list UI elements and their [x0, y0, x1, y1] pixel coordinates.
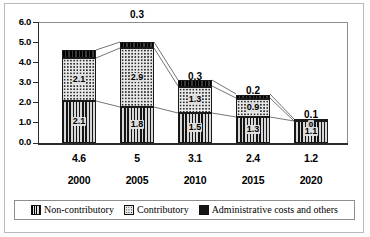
total-value: 2.4 [223, 152, 283, 164]
legend-label: Administrative costs and others [212, 205, 338, 215]
y-tick [33, 102, 38, 103]
legend-item-non-contributory[interactable]: Non-contributory [31, 205, 114, 215]
bar-top-value-2005: 0.3 [115, 10, 159, 20]
total-value: 1.2 [281, 152, 341, 164]
x-tick-label: 2005 [107, 174, 167, 186]
bar-segment-contributory: 2.9 [120, 48, 154, 107]
legend-item-contributory[interactable]: Contributory [124, 205, 189, 215]
y-tick-label: 0.0 [3, 137, 31, 147]
bar-segment-non-contributory: 1.5 [178, 113, 212, 143]
bar-2015[interactable]: 0.2 0.9 1.3 [236, 22, 270, 143]
y-tick-label: 4.0 [3, 57, 31, 67]
segment-value: 1.3 [188, 95, 203, 104]
y-tick [33, 82, 38, 83]
y-tick-label: 2.0 [3, 97, 31, 107]
y-tick-label: 3.0 [3, 77, 31, 87]
y-tick-label: 5.0 [3, 37, 31, 47]
bar-segment-non-contributory: 2.1 [62, 101, 96, 143]
total-value: 4.6 [49, 152, 109, 164]
x-tick-label: 2015 [223, 174, 283, 186]
y-tick [33, 122, 38, 123]
legend-label: Non-contributory [44, 205, 114, 215]
legend-swatch-icon [31, 205, 41, 215]
bar-segment-contributory: 0.9 [236, 99, 270, 117]
legend-swatch-icon [199, 205, 209, 215]
x-tick-label: 2010 [165, 174, 225, 186]
bar-segment-contributory: 2.1 [62, 58, 96, 100]
chart-legend: Non-contributory Contributory Administra… [14, 200, 355, 220]
segment-value: 2.9 [130, 73, 145, 82]
segment-value: 1.1 [304, 127, 319, 136]
x-axis-category-row: 2000 2005 2010 2015 2020 [0, 174, 370, 188]
legend-label: Contributory [137, 205, 189, 215]
segment-value: 0.9 [246, 103, 261, 112]
y-tick [33, 62, 38, 63]
bar-segment-contributory: 1.3 [178, 87, 212, 113]
y-tick [33, 22, 38, 23]
total-value: 3.1 [165, 152, 225, 164]
y-tick-label: 1.0 [3, 117, 31, 127]
y-tick-label: 6.0 [3, 17, 31, 27]
y-tick [33, 42, 38, 43]
bar-2000[interactable]: 2.1 2.1 [62, 22, 96, 143]
bar-segment-non-contributory: 1.3 [236, 117, 270, 143]
segment-value: 1.8 [130, 120, 145, 129]
bar-2005[interactable]: 0.3 2.9 1.8 [120, 22, 154, 143]
segment-value: 1.5 [188, 123, 203, 132]
bar-segment-administrative [62, 50, 96, 58]
segment-value: 1.3 [246, 125, 261, 134]
segment-value: 2.1 [72, 117, 87, 126]
segment-value: 2.1 [72, 75, 87, 84]
chart-figure: 6.0 5.0 4.0 3.0 2.0 1.0 0.0 [0, 0, 370, 237]
bar-2010[interactable]: 0.3 1.3 1.5 [178, 22, 212, 143]
legend-item-administrative[interactable]: Administrative costs and others [199, 205, 338, 215]
x-tick-label: 2000 [49, 174, 109, 186]
y-axis-line [38, 22, 39, 144]
x-axis-line [38, 143, 348, 145]
total-value: 5 [107, 152, 167, 164]
bar-segment-non-contributory: 1.8 [120, 107, 154, 143]
bar-2020[interactable]: 0.1 0 1.1 [294, 22, 328, 143]
y-tick [33, 143, 38, 144]
x-tick-label: 2020 [281, 174, 341, 186]
totals-row: 4.6 5 3.1 2.4 1.2 [0, 152, 370, 166]
legend-swatch-icon [124, 205, 134, 215]
